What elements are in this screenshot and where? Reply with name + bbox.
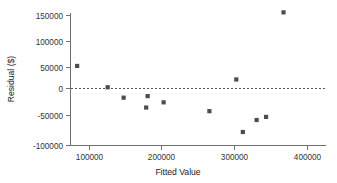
x-tick-label: 300000 [221,153,249,162]
y-tick-label: -50000 [38,112,64,121]
chart-canvas: 150000 100000 50000 0 -50000 -100000 100… [0,0,337,183]
data-point-group [75,10,286,134]
x-tick-label: 200000 [148,153,176,162]
data-point [146,94,150,98]
data-point [264,115,268,119]
residual-plot: 150000 100000 50000 0 -50000 -100000 100… [0,0,337,183]
data-point [255,118,259,122]
x-tick-label: 100000 [76,153,104,162]
y-tick-marks [66,16,71,146]
data-point [162,100,166,104]
data-point [241,130,245,134]
y-tick-label: -100000 [33,142,63,151]
y-tick-label: 0 [58,85,63,94]
data-point [122,96,126,100]
data-point [144,105,148,109]
data-point [281,10,285,14]
x-axis-title: Fitted Value [155,167,200,177]
x-tick-marks [90,146,308,151]
y-tick-label: 100000 [36,38,64,47]
y-tick-label: 150000 [36,12,64,21]
y-axis-title: Residual ($) [6,56,16,102]
x-tick-label: 400000 [294,153,322,162]
y-tick-label: 50000 [40,64,63,73]
plot-area: 150000 100000 50000 0 -50000 -100000 100… [0,0,337,183]
data-point [234,77,238,81]
data-point [75,64,79,68]
data-point [106,85,110,89]
data-point [207,109,211,113]
